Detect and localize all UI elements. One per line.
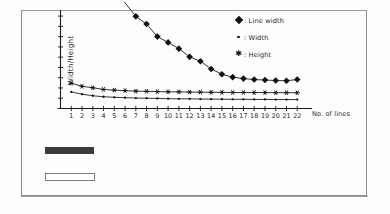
filled-diamond-icon bbox=[233, 17, 244, 25]
legend-item-width: : Width bbox=[233, 29, 353, 46]
scanned-page: Width/Height No. of lines 12345678910111… bbox=[0, 0, 390, 214]
legend-label-width: : Width bbox=[244, 34, 269, 42]
page-bottom-edge bbox=[21, 196, 368, 197]
chart-legend: : Line width : Width ✱ : Height bbox=[233, 12, 353, 63]
highlighted-caption-bar bbox=[45, 147, 94, 154]
legend-item-height: ✱ : Height bbox=[233, 46, 353, 63]
small-dot-icon bbox=[233, 34, 244, 41]
legend-label-line-width: : Line width bbox=[244, 17, 284, 25]
legend-label-height: : Height bbox=[244, 51, 271, 59]
legend-item-line-width: : Line width bbox=[233, 12, 353, 29]
chart-figure: Width/Height No. of lines 12345678910111… bbox=[0, 0, 390, 214]
x-tick-label: 22 bbox=[291, 112, 303, 120]
asterisk-icon: ✱ bbox=[233, 51, 244, 58]
empty-outlined-box bbox=[45, 173, 95, 181]
